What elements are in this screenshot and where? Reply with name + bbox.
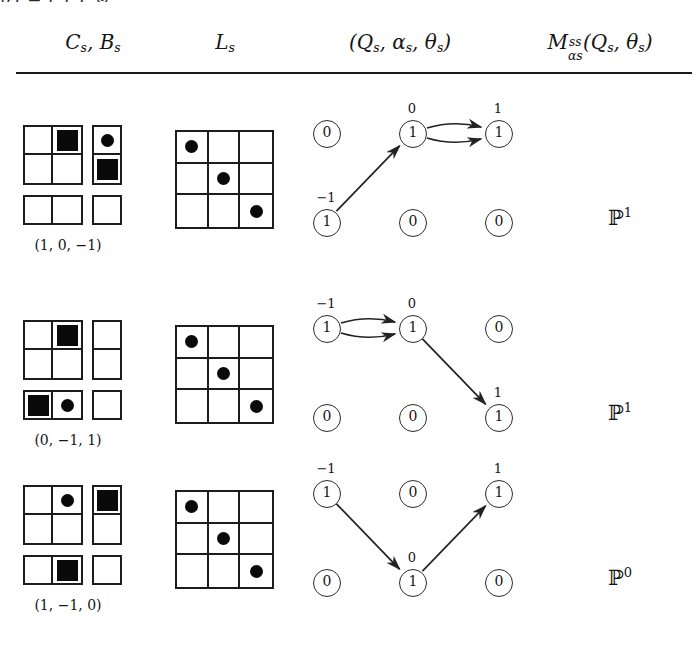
filled-square-marker bbox=[57, 560, 78, 581]
cb-block-bottom-right bbox=[92, 390, 122, 420]
cb-block-bottom-left bbox=[23, 555, 83, 585]
block-cell bbox=[94, 515, 120, 543]
graph-edge bbox=[427, 124, 481, 128]
header-b-sub: s bbox=[114, 40, 120, 55]
state-graph: 1−10110100 bbox=[310, 470, 540, 640]
block-cell bbox=[94, 350, 120, 378]
l-grid-cell bbox=[177, 327, 209, 359]
graph-node: 1 bbox=[399, 569, 427, 597]
graph-node: 0 bbox=[485, 569, 513, 597]
header-c: C bbox=[65, 30, 80, 54]
l-grid bbox=[175, 490, 274, 589]
graph-node-label: −1 bbox=[304, 296, 348, 311]
blackboard-p-symbol: ℙ bbox=[608, 566, 624, 590]
cb-block-top-right bbox=[92, 125, 122, 185]
graph-node: 0 bbox=[399, 209, 427, 237]
graph-node-label: 0 bbox=[390, 101, 434, 116]
graph-node-label: 0 bbox=[390, 550, 434, 565]
header-sep: , bbox=[87, 30, 100, 54]
dot-marker bbox=[185, 500, 198, 513]
block-cell bbox=[94, 557, 120, 583]
cb-block-bottom-right bbox=[92, 555, 122, 585]
dot-marker bbox=[185, 335, 198, 348]
block-cell bbox=[53, 197, 81, 223]
header-m-sub: αs bbox=[568, 48, 583, 63]
l-grid-cell bbox=[177, 359, 209, 391]
header-m-sup: ss bbox=[569, 35, 581, 49]
cb-block-bottom-left bbox=[23, 390, 83, 420]
graph-node: 1 bbox=[399, 120, 427, 148]
cb-block-top-left bbox=[23, 320, 83, 380]
block-cell bbox=[53, 322, 81, 350]
block-cell bbox=[53, 557, 81, 583]
dot-marker bbox=[217, 532, 230, 545]
l-grid-cell bbox=[209, 390, 241, 422]
state-graph: 1−11000011 bbox=[310, 305, 540, 475]
dot-marker bbox=[250, 205, 263, 218]
l-grid bbox=[175, 130, 274, 229]
l-grid-cell bbox=[209, 195, 241, 227]
filled-square-marker bbox=[57, 325, 78, 346]
column-header-cb: Cs, Bs bbox=[23, 30, 163, 55]
blackboard-p-symbol: ℙ bbox=[608, 401, 624, 425]
state-graph: 010111−100 bbox=[310, 110, 540, 280]
block-cell bbox=[25, 197, 53, 223]
graph-node: 0 bbox=[399, 404, 427, 432]
cb-block-top-left bbox=[23, 125, 83, 185]
cb-block-bottom-left bbox=[23, 195, 83, 225]
column-header-l: Ls bbox=[175, 30, 275, 55]
l-grid-cell bbox=[177, 524, 209, 556]
header-l: L bbox=[215, 30, 228, 54]
filled-square-marker bbox=[28, 395, 49, 416]
block-cell bbox=[25, 127, 53, 155]
triple-label: (1, −1, 0) bbox=[13, 597, 123, 613]
top-cut-text: ϑ) = ( ) 1 ⊚ bbox=[0, 0, 696, 2]
l-grid-cell bbox=[240, 195, 272, 227]
graph-node: 0 bbox=[485, 315, 513, 343]
value-exponent: 1 bbox=[624, 205, 632, 220]
graph-node: 1 bbox=[313, 209, 341, 237]
block-cell bbox=[53, 515, 81, 543]
header-alpha: , α bbox=[380, 30, 406, 54]
graph-node-label: 1 bbox=[476, 101, 520, 116]
header-m: M bbox=[548, 30, 568, 54]
block-cell bbox=[94, 487, 120, 515]
block-cell bbox=[25, 487, 53, 515]
cb-block-bottom-right bbox=[92, 195, 122, 225]
block-cell bbox=[53, 487, 81, 515]
l-grid-cell bbox=[209, 492, 241, 524]
block-cell bbox=[94, 322, 120, 350]
block-cell bbox=[53, 127, 81, 155]
l-grid-cell bbox=[240, 555, 272, 587]
graph-node: 1 bbox=[313, 480, 341, 508]
graph-node: 0 bbox=[313, 404, 341, 432]
graph-node: 1 bbox=[485, 404, 513, 432]
l-grid-cell bbox=[177, 132, 209, 164]
value-exponent: 0 bbox=[624, 565, 632, 580]
column-header-m: Mssαs(Qs, θs) bbox=[505, 30, 695, 55]
block-cell bbox=[25, 322, 53, 350]
blackboard-p-symbol: ℙ bbox=[608, 206, 624, 230]
l-grid-cell bbox=[177, 164, 209, 196]
l-grid-cell bbox=[240, 132, 272, 164]
l-grid-cell bbox=[177, 195, 209, 227]
l-grid-cell bbox=[209, 164, 241, 196]
header-close-paren: ) bbox=[443, 30, 451, 54]
l-grid-cell bbox=[240, 327, 272, 359]
header-m-theta: , θ bbox=[614, 30, 639, 54]
graph-node: 1 bbox=[313, 315, 341, 343]
l-grid-cell bbox=[209, 132, 241, 164]
graph-node: 0 bbox=[399, 480, 427, 508]
graph-edge bbox=[341, 319, 395, 323]
block-cell bbox=[94, 155, 120, 183]
cb-block-top-right bbox=[92, 485, 122, 545]
graph-edge bbox=[427, 138, 481, 142]
graph-node: 1 bbox=[399, 315, 427, 343]
header-rule bbox=[16, 72, 692, 74]
l-grid-cell bbox=[209, 359, 241, 391]
block-cell bbox=[53, 392, 81, 418]
l-grid-cell bbox=[240, 492, 272, 524]
l-grid-cell bbox=[240, 524, 272, 556]
graph-node: 0 bbox=[485, 209, 513, 237]
dot-marker bbox=[101, 134, 114, 147]
